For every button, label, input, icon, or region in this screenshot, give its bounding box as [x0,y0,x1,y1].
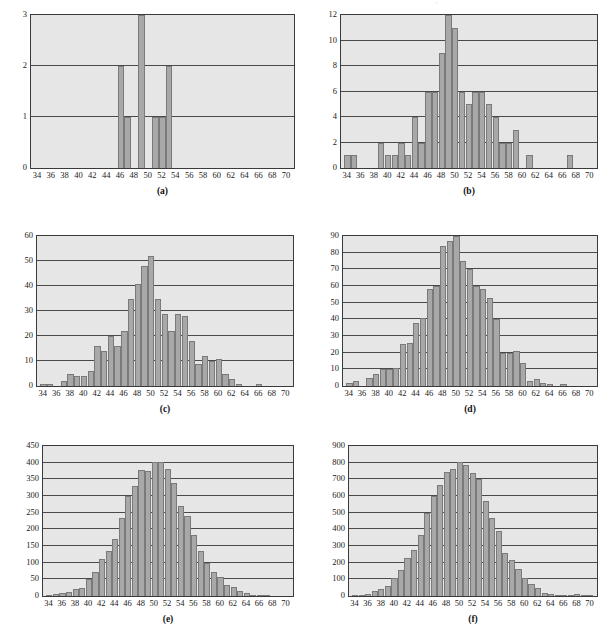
x-axis-b: 34363840424446485052545658606264666870 [340,169,598,185]
histogram-bar [460,261,466,386]
y-tick-label: 10 [331,364,343,373]
histogram-bar [405,155,411,168]
histogram-bar [224,585,230,596]
x-tick-label: 42 [92,389,101,398]
x-tick-label: 46 [425,389,434,398]
panel-c: 0102030405060 34363840424446485052545658… [36,235,294,387]
histogram-bar [499,143,505,169]
histogram-bar [94,346,100,386]
x-axis-c: 34363840424446485052545658606264666870 [36,387,294,403]
histogram-bar [437,485,443,596]
x-tick-label: 36 [356,171,365,180]
histogram-bar [184,516,190,596]
histogram-bar [560,384,566,386]
x-tick-label: 50 [146,389,155,398]
x-tick-label: 48 [130,171,139,180]
y-tick-label: 250 [26,507,42,516]
histogram-bar [236,384,242,387]
histogram-bar [386,369,392,386]
histogram-bar [445,15,451,168]
histogram-bar [393,368,399,386]
histogram-bar [447,241,453,386]
histogram-bar [534,379,540,386]
histogram-bar [439,53,445,168]
x-tick-label: 40 [74,171,83,180]
x-tick-label: 54 [173,389,182,398]
histogram-bar [128,299,134,387]
histogram-e: 050100150200250300350400450 343638404244… [42,445,294,597]
y-tick-label: 200 [26,524,42,533]
x-tick-label: 68 [268,171,277,180]
histogram-bar [237,591,243,596]
y-tick-label: 70 [331,264,343,273]
histogram-d: 0102030405060708090 34363840424446485052… [342,235,598,387]
histogram-bar [513,130,519,168]
y-tick-label: 0 [29,381,36,390]
histogram-bar [346,383,352,386]
histogram-bar [359,595,365,596]
histogram-bar [542,593,548,596]
histogram-bar [106,551,112,596]
histogram-bar [412,117,418,168]
caption-e: (e) [42,614,294,624]
x-axis-f: 34363840424446485052545658606264666870 [348,597,598,613]
x-tick-label: 62 [227,389,236,398]
histogram-bar [81,376,87,386]
histogram-bar [431,496,437,596]
histogram-bar [520,363,526,386]
x-tick-label: 36 [358,389,367,398]
x-tick-label: 70 [585,599,594,608]
x-tick-label: 38 [369,171,378,180]
histogram-bar [256,384,262,387]
x-tick-label: 44 [102,171,111,180]
x-tick-label: 64 [545,171,554,180]
x-tick-label: 52 [465,389,474,398]
x-tick-label: 52 [157,171,166,180]
y-tick-label: 0 [35,591,42,600]
histogram-bar [398,570,404,596]
histogram-bar [480,289,486,386]
histogram-bar [400,344,406,386]
x-tick-label: 68 [572,599,581,608]
histogram-bar [125,496,131,596]
histogram-bar [121,331,127,386]
histogram-bar [61,381,67,386]
histogram-bar [398,143,404,169]
histogram-bar [145,471,151,596]
x-axis-e: 34363840424446485052545658606264666870 [42,597,294,613]
histogram-bar [118,66,125,168]
x-tick-label: 70 [281,599,290,608]
x-tick-label: 60 [518,171,527,180]
x-tick-label: 58 [199,171,208,180]
histogram-bar [159,117,166,168]
histogram-bar [119,518,125,596]
y-tick-label: 400 [26,457,42,466]
x-tick-label: 56 [494,599,503,608]
x-tick-label: 58 [200,389,209,398]
panel-a: 0123 34363840424446485052545658606264666… [30,14,295,169]
histogram-bar [162,314,168,387]
x-tick-label: 64 [241,389,250,398]
x-tick-label: 62 [229,599,238,608]
histogram-bar [522,578,528,596]
histogram-bar [548,594,554,596]
x-tick-label: 68 [268,599,277,608]
y-tick-label: 800 [332,457,348,466]
histogram-bar [47,384,53,387]
x-tick-label: 46 [429,599,438,608]
histogram-bar [59,593,65,596]
histogram-bar [432,92,438,169]
histogram-bar [535,588,541,596]
x-tick-label: 42 [88,171,97,180]
histogram-bar [135,284,141,387]
histogram-bar [216,359,222,387]
y-tick-label: 40 [331,314,343,323]
histogram-bar [507,353,513,386]
histogram-bar [108,336,114,386]
x-tick-label: 54 [477,171,486,180]
caption-c: (c) [36,404,294,414]
y-tick-label: 12 [329,10,341,19]
x-tick-label: 48 [133,389,142,398]
bars-b [341,15,597,168]
y-tick-label: 2 [23,61,30,70]
